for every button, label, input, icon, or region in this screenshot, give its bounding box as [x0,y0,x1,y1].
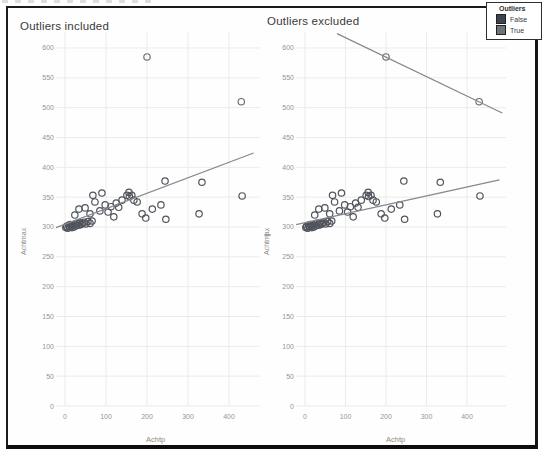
y-tick-label: 100 [282,343,294,350]
scatter-point-false [378,211,384,217]
scatter-point-false [199,179,205,185]
y-tick-label: 150 [42,313,54,320]
y-tick-label: 50 [46,373,54,380]
scatter-chart-svg: 0501001502002503003504004505005506000100… [8,8,535,445]
cropped-text-artifact [2,0,152,3]
x-tick-label: 400 [461,413,473,420]
y-tick-label: 350 [42,194,54,201]
y-tick-label: 600 [282,44,294,51]
y-tick-label: 450 [282,134,294,141]
y-tick-label: 300 [282,223,294,230]
y-tick-label: 400 [42,164,54,171]
legend-outliers: Outliers False True [486,2,542,40]
scatter-point-false [477,193,483,199]
x-tick-label: 300 [421,413,433,420]
y-tick-label: 550 [42,74,54,81]
scatter-point-false [162,178,168,184]
y-tick-label: 250 [282,253,294,260]
legend-swatch-false [496,14,506,24]
scatter-point-false [322,205,328,211]
scatter-point-false [111,214,117,220]
y-tick-label: 200 [282,283,294,290]
y-axis-label-left: Achtmax [20,228,27,255]
scatter-point-false [158,202,164,208]
scanned-figure-page: Outliers included Outliers excluded 0501… [0,0,544,453]
scatter-point-false [139,211,145,217]
legend-title: Outliers [499,5,538,12]
y-tick-label: 100 [42,343,54,350]
y-tick-label: 150 [282,313,294,320]
y-tick-label: 550 [282,74,294,81]
x-tick-label: 100 [340,413,352,420]
scatter-point-false [382,215,388,221]
scatter-point-false [196,211,202,217]
scatter-point-false [82,205,88,211]
x-axis-label-left: Achtp [146,435,165,444]
scatter-point-false [163,216,169,222]
x-tick-label: 0 [63,413,67,420]
scatter-point-true [238,98,244,104]
x-tick-label: 300 [182,413,194,420]
y-tick-label: 450 [42,134,54,141]
y-tick-label: 0 [50,403,54,410]
scatter-point-false [336,208,342,214]
scatter-point-false [331,199,337,205]
y-tick-label: 250 [42,253,54,260]
x-tick-label: 200 [141,413,153,420]
legend-item-true: True [496,25,538,35]
legend-item-false: False [496,14,538,24]
scatter-point-false [388,206,394,212]
scatter-point-false [92,199,98,205]
y-tick-label: 400 [282,164,294,171]
scatter-point-false [312,212,318,218]
legend-label-false: False [510,16,527,23]
y-tick-label: 350 [282,194,294,201]
legend-label-true: True [510,27,524,34]
x-axis-label-right: Achtp [386,435,405,444]
scatter-point-false [401,178,407,184]
x-tick-label: 0 [303,413,307,420]
scatter-point-false [149,206,155,212]
scatter-point-false [401,216,407,222]
trend-line [337,34,502,113]
y-tick-label: 300 [42,223,54,230]
scatter-point-false [434,211,440,217]
scatter-point-false [239,193,245,199]
legend-swatch-true [496,25,506,35]
y-tick-label: 0 [290,403,294,410]
scatter-point-false [437,179,443,185]
scatter-point-false [76,206,82,212]
trend-line [296,180,499,225]
scatter-point-false [338,190,344,196]
y-tick-label: 500 [42,104,54,111]
y-axis-label-right: Achtmax [263,228,270,255]
scatter-point-false [99,190,105,196]
y-tick-label: 600 [42,44,54,51]
x-tick-label: 200 [380,413,392,420]
scatter-point-false [143,215,149,221]
scatter-point-false [316,206,322,212]
scatter-point-false [72,212,78,218]
y-tick-label: 500 [282,104,294,111]
trend-line [56,153,254,228]
figure-frame: Outliers included Outliers excluded 0501… [6,6,538,449]
x-tick-label: 400 [223,413,235,420]
x-tick-label: 100 [100,413,112,420]
y-tick-label: 50 [286,373,294,380]
scatter-point-false [350,214,356,220]
scan-mark-artifact [264,234,271,236]
y-tick-label: 200 [42,283,54,290]
